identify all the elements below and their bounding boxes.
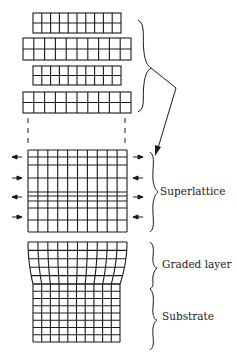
graded-layer-label: Graded layer bbox=[162, 258, 232, 270]
pointer-arrow bbox=[151, 68, 176, 148]
superlattice-diagram: Superlattice Graded layer Substrate bbox=[0, 0, 237, 353]
superlattice-brace bbox=[150, 152, 158, 232]
dashed-guides bbox=[28, 118, 125, 148]
substrate-label: Substrate bbox=[162, 310, 214, 322]
top-brace bbox=[138, 20, 151, 112]
substrate-brace bbox=[150, 289, 157, 350]
superlattice-grid bbox=[28, 150, 127, 232]
superlattice-label: Superlattice bbox=[160, 185, 225, 197]
graded-layer-grid bbox=[28, 242, 127, 284]
substrate-grid bbox=[33, 284, 120, 342]
separate-layers bbox=[23, 13, 131, 113]
graded-layer-brace bbox=[150, 242, 157, 289]
pointer-arrowhead-icon bbox=[155, 145, 161, 156]
